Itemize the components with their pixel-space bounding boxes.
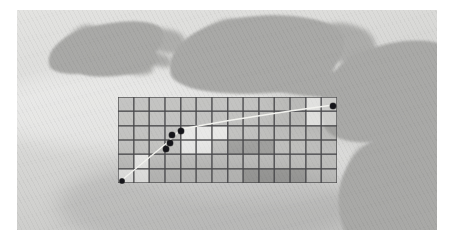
sample-marker-2[interactable] [167,140,173,146]
marker-layer [0,0,454,249]
sample-marker-1[interactable] [163,146,169,152]
sample-marker-3[interactable] [169,132,175,138]
figure-canvas [0,0,454,249]
track-end-marker[interactable] [330,103,336,109]
track-start-marker[interactable] [120,179,125,184]
sample-marker-4[interactable] [178,128,184,134]
